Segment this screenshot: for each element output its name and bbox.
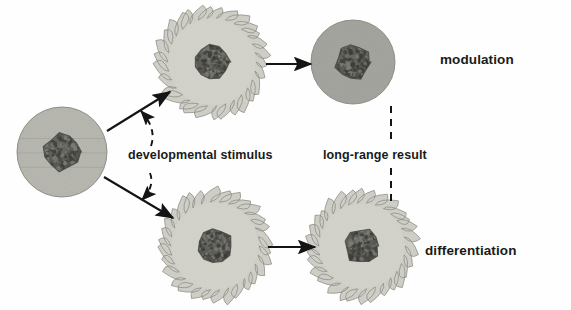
progenitor-cell	[17, 107, 107, 197]
diagram-canvas	[0, 0, 571, 310]
cell-differentiation-diagram: modulation differentiation developmental…	[0, 0, 571, 310]
stimulated-cell-bottom	[158, 186, 273, 305]
arrow-progenitor-to-top	[107, 92, 170, 131]
label-modulation: modulation	[440, 52, 514, 67]
stimulated-cell-top	[153, 5, 271, 120]
dashed-stimulus-upper-branch	[141, 111, 153, 146]
differentiated-cell	[306, 188, 421, 304]
modulated-cell	[311, 20, 395, 104]
label-differentiation: differentiation	[425, 243, 517, 258]
dashed-stimulus-lower-branch	[142, 173, 151, 200]
label-developmental-stimulus: developmental stimulus	[128, 148, 273, 162]
label-long-range-result: long-range result	[323, 148, 427, 162]
arrow-progenitor-to-bottom	[104, 177, 173, 218]
